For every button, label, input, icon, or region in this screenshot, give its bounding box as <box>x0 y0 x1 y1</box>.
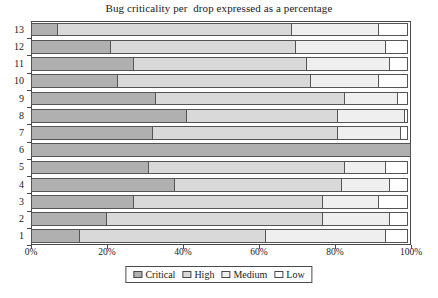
bar-segment-low <box>385 229 408 243</box>
legend-item-low[interactable]: Low <box>274 269 304 280</box>
bar-segment-critical <box>31 23 58 37</box>
bar-segment-low <box>389 57 408 71</box>
y-axis-tick <box>27 124 31 125</box>
bar-segment-medium <box>310 74 378 88</box>
bar-row <box>31 40 411 54</box>
bar-row <box>31 143 411 157</box>
bar-segment-critical <box>31 57 134 71</box>
legend-swatch-critical-icon <box>133 271 142 278</box>
y-axis-label: 13 <box>14 25 24 35</box>
bar-segment-critical <box>31 178 175 192</box>
bar-segment-medium <box>295 40 386 54</box>
bar-segment-high <box>174 178 341 192</box>
bar-segment-medium <box>322 195 379 209</box>
x-axis-tick <box>259 245 260 249</box>
bar-segment-high <box>110 40 296 54</box>
legend-item-high[interactable]: High <box>182 269 214 280</box>
bar-segment-high <box>133 195 323 209</box>
y-axis-tick <box>27 38 31 39</box>
bar-segment-critical <box>31 40 111 54</box>
bar-segment-critical <box>31 126 153 140</box>
y-axis-tick <box>27 176 31 177</box>
y-axis-label: 12 <box>14 42 24 52</box>
y-axis-tick <box>27 193 31 194</box>
bar-segment-low <box>404 109 408 123</box>
y-axis-label: 3 <box>19 197 24 207</box>
legend-label: Critical <box>145 269 175 280</box>
x-axis-tick <box>335 245 336 249</box>
x-axis-tick <box>31 245 32 249</box>
bar-segment-low <box>385 40 408 54</box>
y-axis-label: 2 <box>19 214 24 224</box>
legend-swatch-low-icon <box>274 271 283 278</box>
y-axis-tick <box>27 211 31 212</box>
bar-row <box>31 92 411 106</box>
y-axis-label: 5 <box>19 162 24 172</box>
bar-segment-medium <box>344 161 386 175</box>
y-axis-label: 9 <box>19 94 24 104</box>
y-axis-tick <box>27 90 31 91</box>
bar-segment-medium <box>265 229 387 243</box>
legend-item-medium[interactable]: Medium <box>221 269 267 280</box>
bar-segment-low <box>389 212 408 226</box>
bar-segment-high <box>148 161 346 175</box>
bar-segment-critical <box>31 212 107 226</box>
bar-segment-low <box>389 178 408 192</box>
bar-segment-low <box>397 92 408 106</box>
y-axis-label: 1 <box>19 231 24 241</box>
bar-row <box>31 195 411 209</box>
legend-item-critical[interactable]: Critical <box>133 269 175 280</box>
y-axis-label: 7 <box>19 128 24 138</box>
bar-segment-medium <box>337 109 405 123</box>
bar-row <box>31 161 411 175</box>
legend-label: Medium <box>233 269 267 280</box>
bar-segment-medium <box>322 212 390 226</box>
bar-row <box>31 126 411 140</box>
y-axis-tick <box>27 228 31 229</box>
stacked-bar-chart: Bug criticality per drop expressed as a … <box>0 0 438 298</box>
y-axis-tick <box>27 55 31 56</box>
bar-segment-low <box>378 195 408 209</box>
bar-row <box>31 74 411 88</box>
bar-segment-medium <box>291 23 378 37</box>
bar-row <box>31 178 411 192</box>
x-axis-tick <box>411 245 412 249</box>
y-axis-label: 6 <box>19 145 24 155</box>
legend-swatch-high-icon <box>182 271 191 278</box>
y-axis-label: 4 <box>19 180 24 190</box>
legend-swatch-medium-icon <box>221 271 230 278</box>
y-axis-tick <box>27 73 31 74</box>
bar-row <box>31 109 411 123</box>
bar-segment-low <box>378 23 408 37</box>
y-axis-tick <box>27 142 31 143</box>
bar-segment-low <box>378 74 408 88</box>
bar-segment-critical <box>31 143 411 157</box>
bar-segment-critical <box>31 161 149 175</box>
legend-label: High <box>194 269 214 280</box>
chart-legend: CriticalHighMediumLow <box>125 266 312 283</box>
x-axis-tick <box>183 245 184 249</box>
bar-segment-critical <box>31 229 80 243</box>
bar-segment-low <box>385 161 408 175</box>
y-axis: 13121110987654321 <box>0 21 28 245</box>
bar-segment-medium <box>306 57 390 71</box>
bar-segment-high <box>57 23 293 37</box>
bars-layer <box>31 21 411 245</box>
bar-row <box>31 212 411 226</box>
bar-segment-high <box>106 212 323 226</box>
chart-title: Bug criticality per drop expressed as a … <box>0 2 438 14</box>
bar-segment-critical <box>31 195 134 209</box>
bar-segment-low <box>400 126 408 140</box>
bar-segment-high <box>155 92 345 106</box>
x-axis-tick <box>107 245 108 249</box>
bar-row <box>31 57 411 71</box>
legend-label: Low <box>286 269 304 280</box>
bar-segment-medium <box>341 178 390 192</box>
y-axis-label: 10 <box>14 76 24 86</box>
bar-row <box>31 229 411 243</box>
y-axis-tick <box>27 107 31 108</box>
bar-segment-high <box>117 74 311 88</box>
bar-segment-critical <box>31 74 118 88</box>
bar-segment-high <box>186 109 338 123</box>
y-axis-tick <box>27 159 31 160</box>
